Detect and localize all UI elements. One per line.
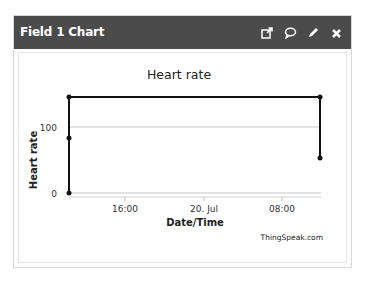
panel-header: Field 1 Chart xyxy=(14,16,351,49)
chart-area: Heart rate 100 0 Heart rate 16:00 20. Ju… xyxy=(18,52,347,263)
panel-title: Field 1 Chart xyxy=(20,25,104,39)
y-tick-label: 100 xyxy=(40,123,57,133)
series-line xyxy=(69,97,320,193)
credit-link[interactable]: ThingSpeak.com xyxy=(260,233,323,242)
x-tick-label: 20. Jul xyxy=(190,204,218,214)
open-external-icon[interactable] xyxy=(260,24,274,40)
line-chart: Heart rate 100 0 Heart rate 16:00 20. Ju… xyxy=(19,53,348,265)
y-axis-label: Heart rate xyxy=(28,131,39,190)
edit-icon[interactable] xyxy=(306,24,320,40)
x-tick-label: 16:00 xyxy=(112,204,138,214)
data-point[interactable] xyxy=(67,191,72,196)
chart-title: Heart rate xyxy=(147,67,211,82)
data-point[interactable] xyxy=(67,95,72,100)
x-axis-label: Date/Time xyxy=(166,217,224,228)
close-icon[interactable] xyxy=(329,24,343,40)
comment-icon[interactable] xyxy=(283,24,297,40)
y-tick-label: 0 xyxy=(51,189,57,199)
chart-panel: Field 1 Chart Heart rate xyxy=(13,15,352,268)
panel-toolbar xyxy=(260,24,343,40)
data-point[interactable] xyxy=(318,95,323,100)
data-point[interactable] xyxy=(67,136,72,141)
data-point[interactable] xyxy=(318,156,323,161)
x-tick-label: 08:00 xyxy=(269,204,295,214)
